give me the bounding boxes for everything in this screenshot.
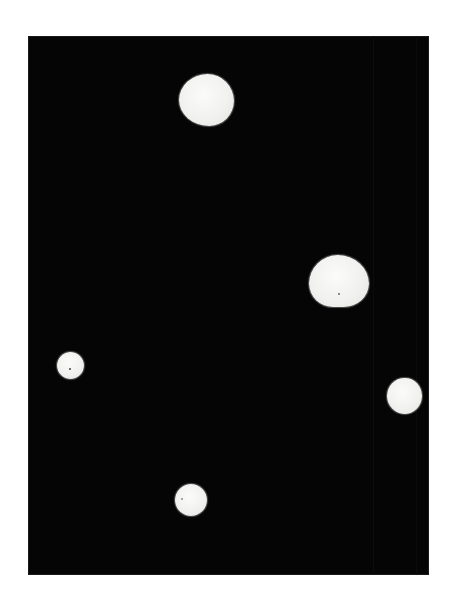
blob-bottom xyxy=(175,484,207,516)
blob-speck xyxy=(69,368,71,370)
blob-right-small xyxy=(387,378,422,414)
plate-streak xyxy=(373,36,374,575)
blob-right-middle xyxy=(309,255,369,307)
blob-left-small xyxy=(57,352,84,379)
black-plate xyxy=(28,36,429,575)
image-canvas xyxy=(0,0,455,611)
blob-top xyxy=(179,74,234,126)
blob-speck xyxy=(181,498,183,500)
blob-speck xyxy=(338,293,340,295)
plate-streak xyxy=(416,36,417,575)
